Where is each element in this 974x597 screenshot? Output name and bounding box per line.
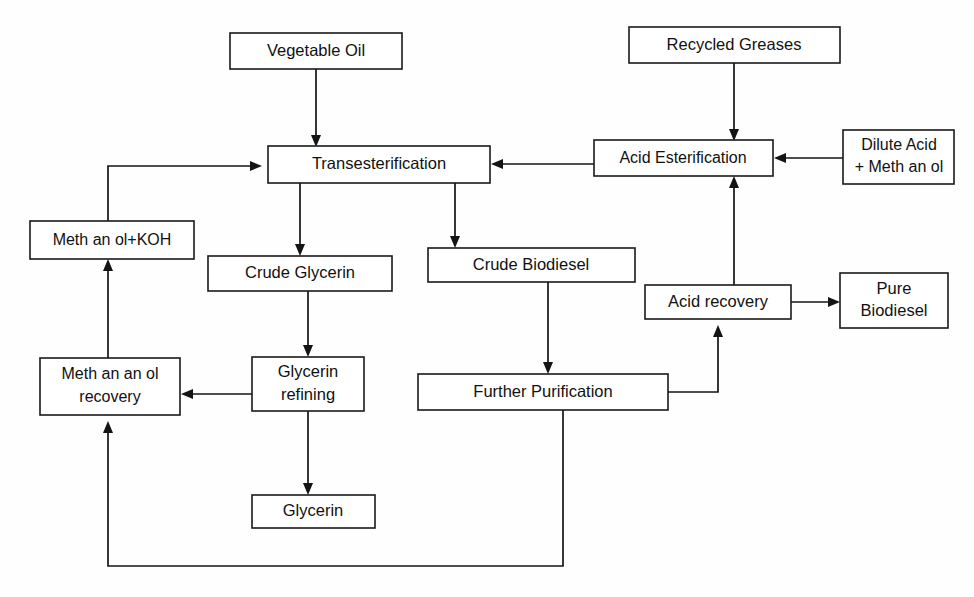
node-crude-glycerin-label: Crude Glycerin xyxy=(245,263,355,281)
node-further-purification-label: Further Purification xyxy=(473,382,612,400)
edge-recycled-greases-to-acid-esterification xyxy=(729,63,739,141)
edge-acid-recovery-to-acid-esterification xyxy=(729,176,739,285)
node-acid-esterification-label: Acid Esterification xyxy=(619,149,746,166)
node-methanol-recovery-label-line1: Meth an an ol xyxy=(62,365,159,382)
edge-glycerin-refining-to-methanol-recovery xyxy=(181,389,252,399)
flowchart-canvas: Vegetable Oil Recycled Greases Transeste… xyxy=(0,0,974,597)
edge-dilute-acid-to-acid-esterification xyxy=(774,153,843,163)
node-methanol-koh[interactable]: Meth an ol+KOH xyxy=(30,221,194,259)
node-vegetable-oil-label: Vegetable Oil xyxy=(267,41,365,59)
node-acid-recovery[interactable]: Acid recovery xyxy=(645,285,791,319)
node-crude-glycerin[interactable]: Crude Glycerin xyxy=(208,256,392,291)
edge-acid-recovery-to-pure-biodiesel xyxy=(791,297,840,307)
edge-vegetable-oil-to-transesterification xyxy=(311,69,321,147)
node-dilute-acid-methanol-label-line2: + Meth an ol xyxy=(855,158,944,175)
node-pure-biodiesel-label-line2: Biodiesel xyxy=(861,301,928,319)
node-glycerin-refining-label-line1: Glycerin xyxy=(278,362,339,380)
edge-transesterification-to-crude-glycerin xyxy=(295,183,305,256)
node-transesterification[interactable]: Transesterification xyxy=(268,146,490,183)
node-further-purification[interactable]: Further Purification xyxy=(418,374,668,410)
node-dilute-acid-methanol-label-line1: Dilute Acid xyxy=(861,136,937,153)
node-glycerin-refining-label-line2: refining xyxy=(281,385,335,403)
node-vegetable-oil[interactable]: Vegetable Oil xyxy=(230,33,402,69)
node-pure-biodiesel-label-line1: Pure xyxy=(877,279,912,297)
edge-acid-esterification-to-transesterification xyxy=(491,159,594,169)
node-pure-biodiesel[interactable]: Pure Biodiesel xyxy=(840,273,948,328)
node-methanol-recovery-label-line2: recovery xyxy=(79,388,140,405)
node-recycled-greases[interactable]: Recycled Greases xyxy=(629,27,840,63)
edge-further-purification-to-acid-recovery xyxy=(668,325,723,392)
node-dilute-acid-methanol[interactable]: Dilute Acid + Meth an ol xyxy=(843,130,954,184)
edge-crude-biodiesel-to-further-purification xyxy=(543,282,553,374)
node-glycerin[interactable]: Glycerin xyxy=(252,495,375,528)
node-crude-biodiesel[interactable]: Crude Biodiesel xyxy=(428,248,635,282)
node-methanol-koh-label: Meth an ol+KOH xyxy=(53,231,172,248)
edge-further-purification-to-methanol-recovery xyxy=(103,410,563,566)
biodiesel-process-flowchart: Vegetable Oil Recycled Greases Transeste… xyxy=(0,0,974,597)
edge-transesterification-to-crude-biodiesel xyxy=(450,183,460,248)
node-layer: Vegetable Oil Recycled Greases Transeste… xyxy=(30,27,954,528)
node-transesterification-label: Transesterification xyxy=(312,154,446,172)
node-crude-biodiesel-label: Crude Biodiesel xyxy=(473,255,589,273)
node-glycerin-label: Glycerin xyxy=(283,501,344,519)
edge-methanol-recovery-to-methanol-koh xyxy=(103,259,113,358)
node-methanol-recovery[interactable]: Meth an an ol recovery xyxy=(40,358,180,415)
edge-glycerin-refining-to-glycerin xyxy=(303,411,313,495)
node-recycled-greases-label: Recycled Greases xyxy=(667,35,802,53)
edge-crude-glycerin-to-glycerin-refining xyxy=(303,291,313,357)
node-acid-esterification[interactable]: Acid Esterification xyxy=(594,140,773,176)
edge-methanol-koh-to-transesterification xyxy=(108,161,262,221)
node-glycerin-refining[interactable]: Glycerin refining xyxy=(252,357,364,411)
node-acid-recovery-label: Acid recovery xyxy=(668,292,769,310)
